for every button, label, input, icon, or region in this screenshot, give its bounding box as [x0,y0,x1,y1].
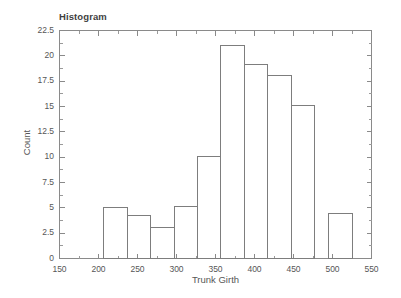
x-axis-tick-labels: 150200250300350400450500550 [0,0,401,298]
x-tick-label: 400 [235,264,275,274]
x-axis-label: Trunk Girth [0,274,401,285]
histogram-chart: Histogram 02.557.51012.51517.52022.5 150… [0,0,401,298]
x-tick-label: 350 [196,264,236,274]
x-tick-label: 200 [79,264,119,274]
x-tick-label: 250 [118,264,158,274]
x-tick-label: 550 [352,264,392,274]
y-axis-label: Count [21,112,32,172]
x-tick-label: 450 [274,264,314,274]
x-axis-label-text: Trunk Girth [192,274,239,285]
x-tick-label: 150 [40,264,80,274]
x-tick-label: 500 [313,264,353,274]
x-tick-label: 300 [157,264,197,274]
